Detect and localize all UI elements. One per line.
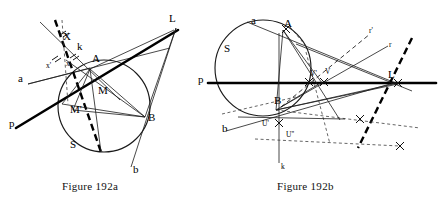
label-Uprime-fig-b: U' [262, 119, 269, 128]
cross-lower-right-1 [356, 115, 364, 123]
label-S-fig-b: S [224, 42, 230, 54]
label-M-fig-a: M [98, 84, 108, 96]
tick-xprime-b [55, 58, 61, 62]
label-r-fig-b: r [389, 40, 392, 49]
label-X-fig-a: X [63, 30, 71, 42]
label-Udprime-fig-b: U'' [286, 130, 295, 139]
label-rprime-fig-b: r' [369, 26, 373, 35]
figure-plate: a p X k A L M M' B S b x' x [0, 0, 441, 201]
caption-figure-192b: Figure 192b [277, 180, 334, 192]
label-Mprime-fig-a: M' [70, 103, 82, 115]
label-S-fig-a: S [70, 138, 76, 150]
cross-marks-b [275, 25, 404, 150]
label-a-fig-b: a [251, 14, 256, 26]
segment-horizontal-b [238, 117, 345, 119]
label-B-fig-a: B [148, 111, 155, 123]
label-A-fig-a: A [92, 52, 100, 64]
label-b-fig-b: b [222, 122, 228, 134]
label-k-fig-b: k [281, 162, 285, 171]
tick-xprime-a [52, 56, 58, 60]
line-b-a [131, 28, 176, 167]
caption-figure-192a: Figure 192a [62, 180, 118, 192]
label-L-fig-a: L [169, 12, 176, 24]
dashed-fine-b-4 [255, 139, 400, 146]
figure-192a-group: a p X k A L M M' B S b x' x [9, 12, 178, 175]
circle-s-b [215, 20, 311, 116]
label-xprime-fig-a: x' [46, 61, 52, 70]
geometry-drawing: a p X k A L M M' B S b x' x [0, 0, 441, 201]
label-Vprime-fig-b: V' [310, 69, 317, 78]
label-x-fig-a: x [66, 59, 70, 68]
chord-a-to-l [90, 30, 174, 69]
label-p-fig-b: p [198, 73, 204, 85]
dashed-bold-b [358, 38, 412, 148]
label-k-fig-a: k [77, 40, 83, 52]
label-B-fig-b: B [274, 94, 281, 106]
label-p-fig-a: p [9, 117, 15, 129]
label-A-fig-b: A [284, 17, 292, 29]
label-V-fig-b: V [325, 67, 331, 76]
label-L-fig-b: L [388, 68, 395, 80]
label-b-fig-a: b [133, 163, 139, 175]
figure-192b-group: S a A r' r p V' V L B b U' U'' k [198, 14, 436, 171]
dashed-fine-b-1 [276, 110, 420, 128]
label-a-fig-a: a [18, 72, 23, 84]
